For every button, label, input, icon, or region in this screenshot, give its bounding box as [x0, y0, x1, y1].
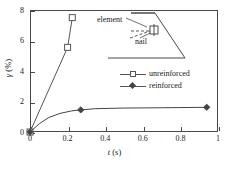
- series-reinforced: [27, 104, 210, 135]
- series-line-reinforced: [30, 107, 207, 132]
- marker-reinforced-2: [204, 104, 210, 110]
- y-axis-title: γ (%): [3, 42, 13, 94]
- chart-legend: unreinforced reinforced: [120, 68, 190, 92]
- marker-unreinforced-1: [65, 44, 71, 50]
- legend-marker-filled-diamond: [120, 80, 146, 92]
- marker-reinforced-1: [78, 107, 84, 113]
- y-tick-label-1: 2: [10, 97, 24, 106]
- legend-item-unreinforced: unreinforced: [120, 68, 190, 80]
- chart-figure: element nail 00.20.40.60.81 02468 t (s) …: [0, 0, 229, 178]
- x-tick-label-1: 0.2: [55, 134, 81, 143]
- x-axis-title-unit: (s): [110, 147, 121, 157]
- x-tick-label-3: 0.6: [130, 134, 156, 143]
- x-axis-title: t (s): [0, 147, 229, 157]
- legend-label-reinforced: reinforced: [146, 81, 182, 91]
- y-tick-label-4: 8: [10, 6, 24, 15]
- marker-unreinforced-2: [69, 15, 75, 21]
- x-tick-label-2: 0.4: [92, 134, 118, 143]
- legend-marker-open-square: [120, 68, 146, 80]
- legend-label-unreinforced: unreinforced: [146, 69, 190, 79]
- y-axis-title-symbol: γ: [3, 74, 13, 77]
- legend-item-reinforced: reinforced: [120, 80, 190, 92]
- x-tick-label-5: 1: [205, 134, 229, 143]
- y-tick-label-0: 0: [10, 128, 24, 137]
- series-line-unreinforced: [30, 18, 72, 132]
- y-axis-title-unit: (%): [3, 59, 13, 74]
- x-tick-label-4: 0.8: [167, 134, 193, 143]
